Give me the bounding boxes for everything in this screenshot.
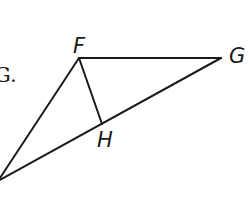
label-h: H bbox=[97, 128, 113, 152]
segment-eg bbox=[0, 58, 221, 181]
label-g: G bbox=[229, 44, 245, 68]
segment-fh bbox=[79, 58, 102, 124]
triangle-diagram: G. F G H bbox=[0, 0, 249, 201]
caption-fragment: G. bbox=[0, 63, 17, 87]
label-f: F bbox=[73, 34, 86, 58]
